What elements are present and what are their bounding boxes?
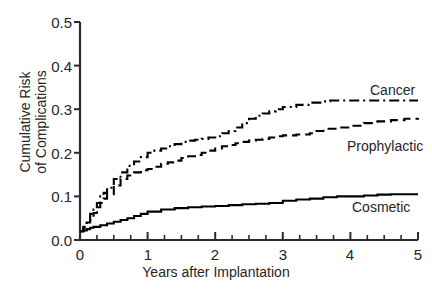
xtick-label-1: 1: [134, 246, 162, 263]
chart-figure: 0.0 0.1 0.2 0.3 0.4 0.5 0 1 2 3 4 5 Year…: [0, 0, 432, 296]
x-axis-title: Years after Implantation: [0, 264, 432, 280]
xtick-label-2: 2: [201, 246, 229, 263]
y-axis-title-line1: Cumulative Risk: [17, 71, 33, 172]
xtick-label-3: 3: [269, 246, 297, 263]
series-label-cancer: Cancer: [370, 82, 415, 98]
series-label-cosmetic: Cosmetic: [352, 199, 410, 215]
xtick-label-5: 5: [404, 246, 432, 263]
xtick-label-0: 0: [66, 246, 94, 263]
xtick-label-4: 4: [336, 246, 364, 263]
y-axis-title-line2: of Complications: [33, 70, 49, 174]
y-axis-title: Cumulative Risk of Complications: [17, 27, 49, 217]
series-label-prophylactic: Prophylactic: [347, 138, 423, 154]
